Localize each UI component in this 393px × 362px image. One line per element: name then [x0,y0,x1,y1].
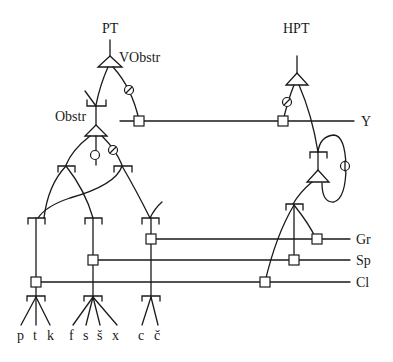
leaf-sh: š [97,328,103,343]
tier-label-gr: Gr [356,232,371,247]
diagram-canvas: PT VObstr Obstr [0,0,393,362]
leaf-t: t [33,328,37,343]
phonological-tree-diagram: PT VObstr Obstr [0,0,393,362]
box-hpt-cl [260,277,270,287]
leaf-p: p [17,328,24,343]
hpt-title: HPT [283,21,310,36]
tier-label-y: Y [361,114,371,129]
leaf-line-p [21,297,36,325]
leaf-x: x [112,328,119,343]
leaf-line-ch [151,297,158,325]
box-hpt-gr [312,234,322,244]
obstr-label: Obstr [55,109,86,124]
obstr-triangle-icon [85,125,107,136]
link-left-to-labial [44,166,66,218]
obstr-left-branch [66,136,90,165]
leaf-s: s [83,328,88,343]
vobstr-left-branch [96,67,108,105]
box-pt-y [134,116,144,126]
vobstr-label: VObstr [119,50,161,65]
box-pt-sp [88,255,98,265]
box-pt-gr [146,234,156,244]
tier-label-sp: Sp [356,253,371,268]
box-hpt-sp [289,255,299,265]
leaf-ch: č [154,328,160,343]
hpt-right-branch [299,85,318,152]
tier-label-cl: Cl [356,275,369,290]
hpt-lower-triangle-icon [307,170,329,182]
hpt-link-cl [265,205,294,282]
leaf-f: f [69,328,74,343]
leaf-line-c [142,297,151,325]
hpt-lower-branch [293,182,312,204]
leaf-k: k [47,328,54,343]
box-hpt-y [278,116,288,126]
leaf-c: c [138,328,144,343]
null-circle-icon [91,151,100,160]
affricate-tick [150,202,162,218]
hpt-triangle-icon [286,73,308,85]
link-right-to-affricate [122,166,150,218]
box-pt-cl [31,277,41,287]
pt-title: PT [102,21,119,36]
leaf-line-k [36,297,50,325]
